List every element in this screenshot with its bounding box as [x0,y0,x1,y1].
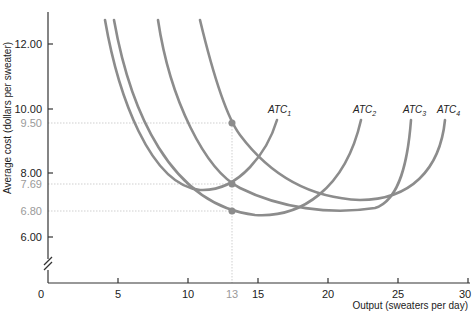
chart-svg: 12.00 10.00 9.50 8.00 7.69 6.80 6.00 0 5… [0,0,473,312]
y-tick-9-50: 9.50 [21,117,42,129]
x-tick-0: 0 [38,288,44,300]
y-tick-7-69: 7.69 [21,178,42,190]
y-tick-12: 12.00 [14,38,42,50]
y-tick-6: 6.00 [21,231,42,243]
x-tick-25: 25 [392,288,404,300]
atc2-label: ATC2 [352,104,376,117]
x-axis-title: Output (sweaters per day) [352,300,468,311]
x-tick-5: 5 [115,288,121,300]
y-tick-10: 10.00 [14,103,42,115]
y-tick-6-80: 6.80 [21,205,42,217]
x-tick-20: 20 [322,288,334,300]
atc1-curve [105,20,277,190]
highlighted-points [229,120,236,215]
y-axis-title: Average cost (dollars per sweater) [2,42,13,194]
atc4-label: ATC4 [436,104,460,117]
atc3-label: ATC3 [402,104,426,117]
atc1-label: ATC1 [267,104,291,117]
atc-chart: 12.00 10.00 9.50 8.00 7.69 6.80 6.00 0 5… [0,0,473,312]
guide-lines [48,123,232,283]
x-tick-10: 10 [182,288,194,300]
atc-curves [105,20,445,215]
x-tick-13: 13 [226,288,238,300]
x-tick-30: 30 [459,288,471,300]
x-tick-15: 15 [252,288,264,300]
